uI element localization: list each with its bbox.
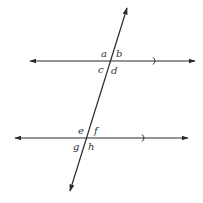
- transversal-line: [70, 8, 127, 191]
- diagram-svg: a b c d e f g h: [0, 0, 203, 203]
- angle-label-c: c: [98, 64, 104, 75]
- angle-label-b: b: [116, 48, 122, 59]
- angle-label-h: h: [88, 141, 94, 152]
- angle-label-e: e: [78, 125, 84, 136]
- parallel-lines-diagram: a b c d e f g h: [0, 0, 203, 203]
- angle-label-d: d: [111, 65, 117, 76]
- angle-label-g: g: [73, 141, 79, 152]
- angle-label-a: a: [101, 48, 107, 59]
- angle-label-f: f: [93, 125, 100, 136]
